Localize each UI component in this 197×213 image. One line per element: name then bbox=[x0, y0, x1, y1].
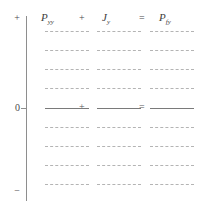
level-line-r6-c1 bbox=[97, 146, 141, 147]
level-line-r8-c1 bbox=[97, 184, 141, 185]
axis-label-negative: − bbox=[0, 186, 20, 196]
zero-row-operator-equals: = bbox=[139, 101, 145, 113]
column-header-jy: Jy bbox=[102, 11, 110, 28]
column-header-pyy: Pyy bbox=[41, 11, 54, 28]
column-subscript-yy: yy bbox=[48, 18, 54, 26]
level-line-r5-c2 bbox=[150, 127, 194, 128]
column-symbol-p1: P bbox=[41, 11, 48, 23]
level-line-r2-c2 bbox=[150, 69, 194, 70]
level-line-r1-c2 bbox=[150, 50, 194, 51]
level-line-r8-c0 bbox=[45, 184, 89, 185]
level-line-r1-c1 bbox=[97, 50, 141, 51]
column-subscript-fy: fy bbox=[166, 18, 171, 26]
level-line-r0-c0 bbox=[45, 31, 89, 32]
level-line-zero-c1 bbox=[97, 108, 141, 109]
level-line-r3-c2 bbox=[150, 88, 194, 89]
level-line-zero-c2 bbox=[150, 108, 194, 109]
level-line-r5-c1 bbox=[97, 127, 141, 128]
level-line-r6-c0 bbox=[45, 146, 89, 147]
level-line-zero-c0 bbox=[45, 108, 89, 109]
column-subscript-y: y bbox=[107, 18, 110, 26]
header-operator-equals: = bbox=[139, 12, 145, 24]
header-operator-plus: + bbox=[79, 12, 85, 24]
level-line-r0-c2 bbox=[150, 31, 194, 32]
level-line-r8-c2 bbox=[150, 184, 194, 185]
level-line-r0-c1 bbox=[97, 31, 141, 32]
level-line-r3-c1 bbox=[97, 88, 141, 89]
level-line-r3-c0 bbox=[45, 88, 89, 89]
axis-label-positive: + bbox=[0, 13, 20, 23]
zero-axis-tick bbox=[21, 108, 27, 109]
column-header-pfy: Pfy bbox=[159, 11, 171, 28]
level-diagram: + 0 − Pyy Jy Pfy + = + = bbox=[0, 0, 197, 213]
level-line-r7-c0 bbox=[45, 165, 89, 166]
level-line-r6-c2 bbox=[150, 146, 194, 147]
level-line-r7-c1 bbox=[97, 165, 141, 166]
level-line-r1-c0 bbox=[45, 50, 89, 51]
level-line-r2-c1 bbox=[97, 69, 141, 70]
zero-row-operator-plus: + bbox=[79, 101, 85, 113]
level-line-r2-c0 bbox=[45, 69, 89, 70]
level-line-r7-c2 bbox=[150, 165, 194, 166]
column-symbol-p2: P bbox=[159, 11, 166, 23]
axis-label-zero: 0 bbox=[0, 103, 20, 113]
level-line-r5-c0 bbox=[45, 127, 89, 128]
